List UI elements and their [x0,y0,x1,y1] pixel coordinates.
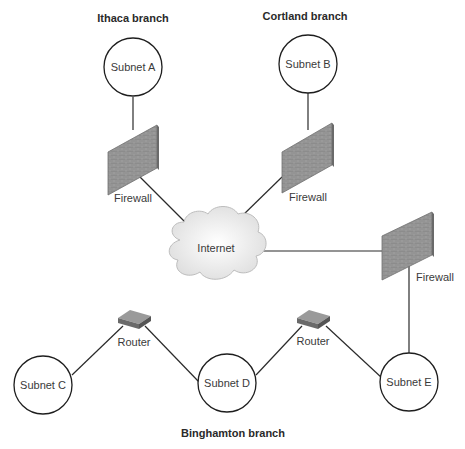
subnet-e: Subnet E [380,353,438,411]
subnet-c-label: Subnet C [20,379,66,391]
subnet-b: Subnet B [279,35,337,93]
firewall-icon [382,212,432,280]
router-label: Router [296,335,329,347]
branch-title-ithaca: Ithaca branch [97,12,169,24]
firewall-cortland: Firewall [282,123,334,203]
firewall-label: Firewall [289,191,327,203]
branch-title-binghamton: Binghamton branch [181,427,285,439]
network-diagram: Ithaca branch Cortland branch Binghamton… [0,0,465,449]
subnet-c: Subnet C [14,356,72,414]
link-router-subnet-e [326,326,382,378]
router-left: Router [117,310,151,348]
firewall-label: Firewall [416,271,454,283]
firewall-binghamton: Firewall [382,212,454,283]
subnet-a-label: Subnet A [111,61,156,73]
link-subnet-d-router [256,326,302,375]
subnet-b-label: Subnet B [285,58,330,70]
link-router-subnet-d [145,326,199,382]
firewall-icon [282,123,332,193]
subnet-e-label: Subnet E [386,376,431,388]
subnet-d: Subnet D [198,354,256,412]
subnet-a: Subnet A [104,38,162,96]
internet-label: Internet [197,242,234,254]
firewall-ithaca: Firewall [108,125,159,204]
link-subnet-c-router [72,326,123,375]
link-firewall-b-internet [240,177,282,218]
router-right: Router [296,310,330,347]
branch-title-cortland: Cortland branch [263,10,348,22]
firewall-label: Firewall [114,192,152,204]
router-label: Router [117,336,150,348]
firewall-icon [108,125,157,195]
subnet-d-label: Subnet D [204,377,250,389]
internet-cloud: Internet [169,207,266,280]
